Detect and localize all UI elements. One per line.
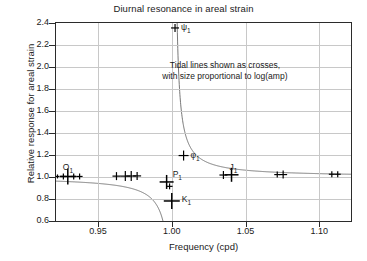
tidal-line-marker (335, 171, 341, 177)
tidal-line-marker (112, 172, 120, 180)
point-label: O1 (63, 162, 73, 174)
chart-title: Diurnal resonance in areal strain (0, 3, 367, 14)
x-tick-label: 1.05 (216, 226, 276, 236)
y-tick-label: 1.8 (3, 83, 49, 93)
plot-area: O1P1K1ψ1φ1J1 Tidal lines shown as crosse… (55, 22, 352, 222)
x-axis-label: Frequency (cpd) (55, 241, 352, 252)
annotation-line-1: Tidal lines shown as crosses, (162, 60, 287, 71)
y-tick-label: 0.8 (3, 193, 49, 203)
annotation-line-2: with size proportional to log(amp) (162, 71, 287, 82)
tidal-line-marker (167, 183, 173, 189)
y-tick-label: 2.4 (3, 17, 49, 27)
tidal-line-marker (279, 171, 287, 179)
tidal-line-marker (56, 174, 59, 178)
tidal-line-marker (71, 173, 77, 179)
y-tick-label: 1.0 (3, 171, 49, 181)
cross-markers (56, 23, 351, 221)
tidal-line-marker (171, 24, 179, 32)
tidal-line-marker (133, 172, 141, 180)
point-label: J1 (230, 162, 238, 174)
point-label: ψ1 (181, 22, 191, 34)
y-tick-label: 2.2 (3, 39, 49, 49)
x-tick-label: 1.00 (142, 226, 202, 236)
y-tick-label: 1.4 (3, 127, 49, 137)
tidal-line-marker (77, 173, 83, 179)
tidal-line-marker (164, 193, 180, 209)
tidal-line-marker (329, 171, 335, 177)
point-label: P1 (173, 169, 182, 181)
x-tick-label: 0.95 (68, 226, 128, 236)
y-tick-label: 0.6 (3, 215, 49, 225)
point-label: φ1 (191, 150, 200, 162)
y-tick-label: 2.0 (3, 61, 49, 71)
point-label: K1 (182, 194, 191, 206)
chart-figure: Diurnal resonance in areal strain Relati… (0, 0, 367, 261)
y-tick-label: 1.6 (3, 105, 49, 115)
tidal-line-marker (179, 151, 189, 161)
crosses-note-annotation: Tidal lines shown as crosses,with size p… (162, 60, 287, 82)
y-tick-label: 1.2 (3, 149, 49, 159)
x-tick-label: 1.10 (289, 226, 349, 236)
